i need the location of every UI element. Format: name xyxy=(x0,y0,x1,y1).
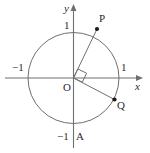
x-axis-label: x xyxy=(135,81,140,92)
point-a-label: A xyxy=(76,131,84,142)
point-q-label: Q xyxy=(117,100,125,111)
point-p-marker xyxy=(95,27,99,31)
y-tick-positive-label: 1 xyxy=(64,20,70,31)
origin-label: O xyxy=(63,82,71,93)
unit-circle-figure: y x O 1 −1 1 −1 P Q A xyxy=(0,0,150,153)
y-tick-negative-label: −1 xyxy=(57,131,69,142)
y-axis-arrowhead-icon xyxy=(71,4,77,11)
point-p-label: P xyxy=(99,13,105,24)
point-q-marker xyxy=(112,97,116,101)
x-tick-positive-label: 1 xyxy=(121,62,127,73)
right-angle-mark-icon xyxy=(74,69,87,82)
y-axis-label: y xyxy=(64,3,69,14)
x-tick-negative-label: −1 xyxy=(12,62,24,73)
y-axis xyxy=(71,4,77,148)
figure-canvas xyxy=(0,0,150,153)
